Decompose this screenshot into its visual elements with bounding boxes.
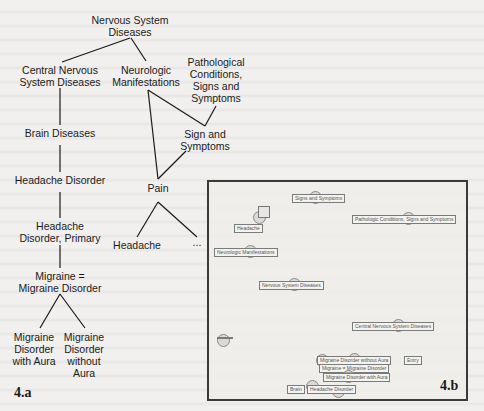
node-brain-diseases: Brain Diseases xyxy=(25,127,96,139)
node-migraine-without-aura: Migraine Disorder without Aura xyxy=(64,331,104,379)
edge-nsd-cnsd xyxy=(62,38,130,62)
label-nervous-system-diseases[interactable]: Nervous System Diseases xyxy=(259,281,324,290)
edge-sign-pain xyxy=(158,151,186,179)
node-central-nervous-system-diseases: Central Nervous System Diseases xyxy=(19,64,100,88)
edge-pain-headache xyxy=(137,202,158,237)
figure-label-4a: 4.a xyxy=(14,385,32,401)
node-square-marker-icon xyxy=(258,206,270,218)
node-headache: Headache xyxy=(113,239,161,251)
edge-migraine-without-aura xyxy=(60,294,85,328)
label-headache-disorder[interactable]: Headache Disorder xyxy=(307,385,356,394)
label-brain[interactable]: Brain xyxy=(287,385,305,394)
edge-neuro-pain xyxy=(148,90,158,179)
node-nervous-system-diseases: Nervous System Diseases xyxy=(91,14,168,38)
edge-migraine-with-aura xyxy=(40,294,60,328)
node-migraine: Migraine = Migraine Disorder xyxy=(19,270,102,294)
edge-pain-ellipsis xyxy=(158,202,197,237)
label-signs-and-symptoms[interactable]: Signs and Symptoms xyxy=(292,194,345,203)
node-marker-icon xyxy=(217,334,230,347)
label-central-nervous-system-diseases[interactable]: Central Nervous System Diseases xyxy=(352,322,434,331)
node-pathological-conditions: Pathological Conditions, Signs and Sympt… xyxy=(187,56,244,104)
edge-nsd-neuro xyxy=(131,38,146,61)
label-pathologic-conditions[interactable]: Pathologic Conditions, Signs and Symptom… xyxy=(352,215,456,224)
label-entry-tag[interactable]: Entry xyxy=(404,356,422,365)
label-migraine-with-aura[interactable]: Migraine Disorder with Aura xyxy=(323,373,390,382)
label-unreadable-node[interactable] xyxy=(217,337,233,339)
label-migraine-equals[interactable]: Migraine = Migraine Disorder xyxy=(319,364,389,373)
node-sign-and-symptoms: Sign and Symptoms xyxy=(180,128,230,152)
label-neurologic-manifestations[interactable]: Neurologic Manifestations xyxy=(214,248,278,257)
node-headache-disorder: Headache Disorder xyxy=(15,174,105,186)
label-headache[interactable]: Headache xyxy=(234,224,263,233)
node-headache-disorder-primary: Headache Disorder, Primary xyxy=(19,220,100,244)
node-ellipsis: ... xyxy=(193,236,202,248)
edge-path-sign xyxy=(205,106,216,126)
node-pain: Pain xyxy=(147,182,168,194)
node-neurologic-manifestations: Neurologic Manifestations xyxy=(112,64,180,88)
figure-4b-panel: Signs and Symptoms Pathologic Conditions… xyxy=(207,180,468,401)
figure-label-4b: 4.b xyxy=(440,378,458,394)
node-migraine-with-aura: Migraine Disorder with Aura xyxy=(12,331,55,367)
